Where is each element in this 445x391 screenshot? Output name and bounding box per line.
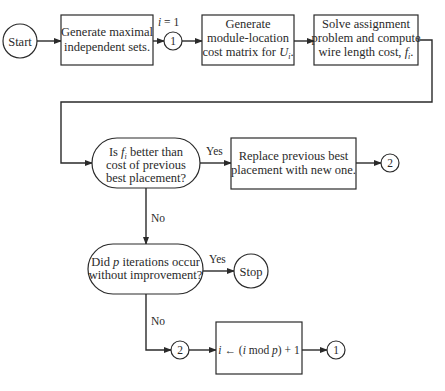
cost-matrix-box: Generate module-location cost matrix for… (202, 15, 294, 65)
connector-2-bottom: 2 (171, 341, 189, 359)
decision-better-line3: best placement? (106, 171, 187, 185)
cost-matrix-line3: cost matrix for Ui. (202, 45, 293, 61)
replace-best-line1: Replace previous best (239, 149, 349, 163)
no-label-1: No (151, 212, 165, 224)
yes-label-2: Yes (209, 253, 226, 265)
decision-iterations: Did p iterations occur without improveme… (88, 244, 203, 294)
connector-2-right-label: 2 (387, 157, 393, 169)
stop-label: Stop (240, 265, 263, 279)
init-label-value: = 1 (161, 16, 179, 28)
cost-matrix-line1: Generate (225, 17, 271, 31)
connector-1-bottom-label: 1 (333, 344, 339, 356)
replace-best-line2: placement with new one. (231, 163, 356, 177)
init-label: i = 1 (158, 16, 179, 28)
solve-assignment-box: Solve assignment problem and compute wir… (312, 15, 421, 65)
generate-sets-box: Generate maximal independent sets. (61, 15, 154, 65)
decision-better-line2: cost of previous (106, 158, 186, 172)
connector-2-right: 2 (381, 154, 399, 172)
update-index-box: i ← (i mod p) + 1 (216, 322, 302, 374)
connector-2-bottom-label: 2 (177, 344, 183, 356)
flowchart-canvas: Start Generate maximal independent sets.… (0, 0, 445, 391)
start-terminal: Start (3, 24, 37, 58)
generate-sets-line2: independent sets. (64, 40, 150, 54)
stop-terminal: Stop (234, 254, 268, 288)
replace-best-box: Replace previous best placement with new… (231, 138, 356, 189)
solve-assignment-line3: wire length cost, fi. (319, 45, 414, 61)
connector-1-label: 1 (170, 35, 176, 47)
update-index-formula: i ← (i mod p) + 1 (218, 344, 300, 357)
solve-assignment-line1: Solve assignment (322, 17, 410, 31)
decision-iterations-line1: Did p iterations occur (91, 255, 200, 269)
generate-sets-line1: Generate maximal (61, 25, 153, 39)
yes-label-1: Yes (206, 145, 223, 157)
connector-1-bottom: 1 (327, 341, 345, 359)
connector-1-top: 1 (164, 32, 182, 50)
no-label-2: No (151, 315, 165, 327)
start-label: Start (8, 35, 32, 49)
decision-iterations-line2: without improvement? (89, 268, 203, 282)
decision-better-placement: Is fi better than cost of previous best … (92, 138, 200, 188)
cost-matrix-line2: module-location (207, 31, 290, 45)
solve-assignment-line2: problem and compute (312, 31, 421, 45)
